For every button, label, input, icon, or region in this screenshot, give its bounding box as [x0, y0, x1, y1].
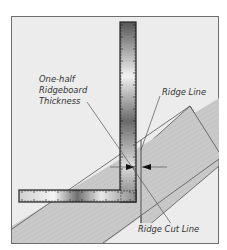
label-half-thickness-2: Ridgeboard — [39, 85, 88, 95]
label-ridge-cut-line: Ridge Cut Line — [138, 224, 199, 234]
label-half-thickness-3: Thickness — [39, 96, 81, 106]
ridge-cut-diagram: One-half Ridgeboard Thickness Ridge Line… — [0, 0, 227, 250]
label-ridge-line: Ridge Line — [162, 87, 206, 97]
label-half-thickness-1: One-half — [39, 74, 76, 84]
square-horizontal-blade — [19, 190, 136, 202]
